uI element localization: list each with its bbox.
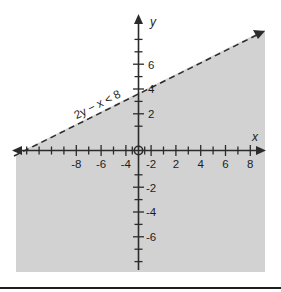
x-tick-label: 2 <box>173 158 179 170</box>
x-tick-label: -6 <box>96 158 106 170</box>
x-tick-label: 6 <box>222 158 228 170</box>
inequality-graph: -8 -6 -4 -2 2 4 6 8 6 4 2 -2 -4 -6 x y 2… <box>0 0 281 281</box>
x-tick-label: -2 <box>146 158 156 170</box>
y-tick-label: 4 <box>148 83 155 95</box>
footer-divider <box>0 287 281 289</box>
y-tick-label: 2 <box>148 108 154 120</box>
x-axis-label: x <box>251 130 259 144</box>
y-tick-label: -2 <box>146 182 156 194</box>
x-tick-label: -4 <box>121 158 132 170</box>
y-tick-label: -6 <box>146 231 156 243</box>
x-tick-label: -8 <box>71 158 81 170</box>
figure-page: -8 -6 -4 -2 2 4 6 8 6 4 2 -2 -4 -6 x y 2… <box>0 0 281 292</box>
y-tick-label: 6 <box>148 59 154 71</box>
graph-canvas: -8 -6 -4 -2 2 4 6 8 6 4 2 -2 -4 -6 x y 2… <box>0 0 281 281</box>
x-tick-label: 4 <box>197 158 204 170</box>
x-tick-label: 8 <box>247 158 253 170</box>
y-tick-label: -4 <box>146 206 157 218</box>
y-axis-label: y <box>149 15 157 29</box>
y-axis-top-arrow <box>134 14 143 24</box>
